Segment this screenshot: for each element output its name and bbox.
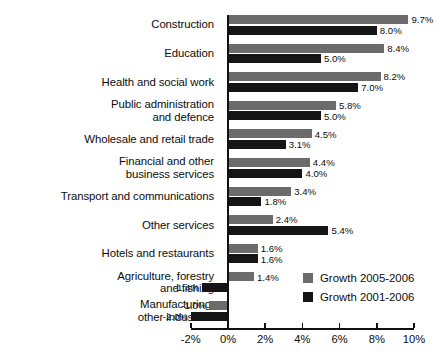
bar-value-label: 8.2% [384, 72, 406, 82]
x-axis-tick-label: 6% [320, 333, 360, 345]
x-axis-tick [302, 323, 304, 328]
bar-recent [228, 272, 254, 281]
bar-value-label: 4.4% [313, 158, 335, 168]
bar-value-label: 8.4% [387, 44, 409, 54]
bar-longrun [228, 54, 321, 63]
bar-recent [228, 129, 312, 138]
bar-value-label: 5.4% [331, 226, 353, 236]
bar-longrun [228, 197, 261, 206]
x-axis-tick [413, 323, 415, 328]
bar-value-label: 5.0% [324, 112, 346, 122]
bar-recent [228, 244, 258, 253]
bar-value-label: 7.0% [361, 83, 383, 93]
bar-longrun [191, 312, 228, 321]
bar-value-label: -1.4% [159, 283, 199, 293]
bar-value-label: 8.0% [380, 26, 402, 36]
bar-value-label: 4.5% [315, 130, 337, 140]
chart-legend: Growth 2005-2006 Growth 2001-2006 [303, 269, 414, 307]
bar-longrun [202, 283, 228, 292]
x-axis-tick [376, 323, 378, 328]
bar-longrun [228, 169, 302, 178]
legend-item-recent: Growth 2005-2006 [303, 269, 414, 286]
legend-label-longrun: Growth 2001-2006 [320, 291, 414, 303]
bar-longrun [228, 226, 328, 235]
bar-value-label: -1.0% [166, 301, 206, 311]
x-axis-baseline [191, 328, 414, 330]
bar-recent [228, 101, 336, 110]
bar-longrun [228, 26, 377, 35]
bar-value-label: 5.8% [339, 101, 361, 111]
x-axis-tick [264, 323, 266, 328]
x-axis-tick-label: 2% [245, 333, 285, 345]
legend-item-longrun: Growth 2001-2006 [303, 288, 414, 305]
x-axis-tick-label: 4% [282, 333, 322, 345]
legend-swatch-icon-longrun [303, 292, 313, 302]
x-axis-tick-label: 0% [208, 333, 248, 345]
grouped-bar-chart: ConstructionEducationHealth and social w… [0, 0, 442, 363]
bar-longrun [228, 83, 358, 92]
bar-recent [228, 215, 273, 224]
plot-area: 9.7%8.4%8.2%5.8%4.5%4.4%3.4%2.4%1.6%1.4%… [0, 0, 442, 363]
bar-recent [228, 158, 310, 167]
x-axis-tick-label: 8% [357, 333, 397, 345]
bar-value-label: 1.4% [257, 273, 279, 283]
legend-label-recent: Growth 2005-2006 [320, 272, 414, 284]
bar-recent [228, 44, 384, 53]
bar-value-label: 5.0% [324, 54, 346, 64]
bar-value-label: 9.7% [411, 15, 433, 25]
bar-recent [228, 187, 291, 196]
zero-axis-line [227, 15, 229, 328]
bar-value-label: 4.0% [305, 169, 327, 179]
legend-swatch-icon-recent [303, 273, 313, 283]
bar-recent [228, 15, 408, 24]
bar-longrun [228, 140, 286, 149]
x-axis-tick [190, 323, 192, 328]
bar-longrun [228, 111, 321, 120]
bar-recent [209, 301, 228, 310]
bar-value-label: 2.4% [276, 215, 298, 225]
x-axis-tick [227, 323, 229, 328]
bar-value-label: 1.6% [261, 244, 283, 254]
x-axis-tick [339, 323, 341, 328]
bar-value-label: -2.0% [148, 312, 188, 322]
bar-value-label: 1.8% [264, 197, 286, 207]
x-axis-tick-label: -2% [171, 333, 211, 345]
bar-longrun [228, 254, 258, 263]
bar-value-label: 1.6% [261, 255, 283, 265]
bar-value-label: 3.1% [289, 140, 311, 150]
bar-recent [228, 72, 381, 81]
bar-value-label: 3.4% [294, 187, 316, 197]
x-axis-tick-label: 10% [394, 333, 434, 345]
